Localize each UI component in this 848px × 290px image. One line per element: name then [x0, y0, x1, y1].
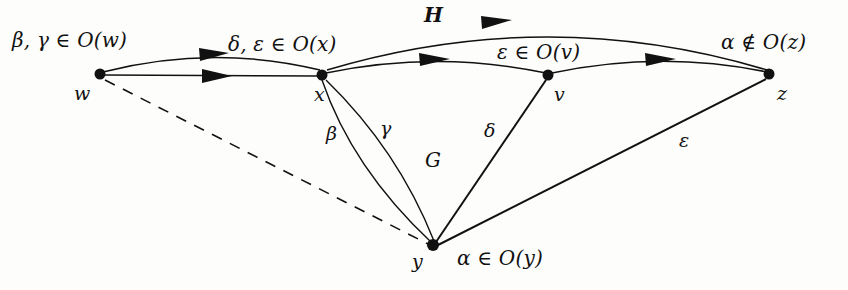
node-label-y: y [412, 252, 423, 271]
node-v[interactable] [543, 70, 554, 81]
set-label-o-x: δ, ε ∈ O(x) [228, 34, 337, 54]
edge-label-gamma: γ [380, 119, 391, 138]
node-label-v: v [554, 85, 565, 104]
graph-label-G: G [425, 150, 441, 170]
node-y[interactable] [427, 239, 439, 251]
edge-y-z-epsilon [438, 79, 766, 245]
edge-label-epsilon: ε [679, 131, 689, 150]
node-label-x: x [314, 85, 325, 104]
arrowhead-w-x-straight [202, 69, 232, 83]
arrowhead-w-x-arc [199, 48, 229, 61]
edge-label-delta: δ [484, 121, 495, 140]
set-label-o-w: β, γ ∈ O(w) [12, 30, 127, 50]
edge-v-z-arc [552, 61, 767, 73]
set-label-o-z: α ∉ O(z) [721, 32, 806, 52]
set-label-o-y: α ∈ O(y) [457, 248, 543, 268]
edge-x-y-gamma [326, 80, 434, 241]
arrowhead-x-v-arc [419, 53, 450, 66]
graph-label-H: H [424, 5, 443, 25]
arrowhead-v-z-arc [645, 53, 676, 66]
set-label-o-v: ε ∈ O(v) [497, 42, 580, 62]
node-x[interactable] [317, 70, 328, 81]
node-z[interactable] [764, 69, 775, 80]
node-label-z: z [777, 84, 787, 103]
edge-w-y-dashed [105, 80, 428, 244]
edge-w-x-arc [103, 57, 320, 72]
node-w[interactable] [95, 69, 106, 80]
graph-diagram: β, γ ∈ O(w) δ, ε ∈ O(x) ε ∈ O(v) α ∉ O(z… [0, 0, 848, 290]
node-label-w: w [74, 84, 90, 103]
edge-label-beta: β [326, 124, 337, 143]
arrowhead-x-z-arc [481, 16, 512, 29]
